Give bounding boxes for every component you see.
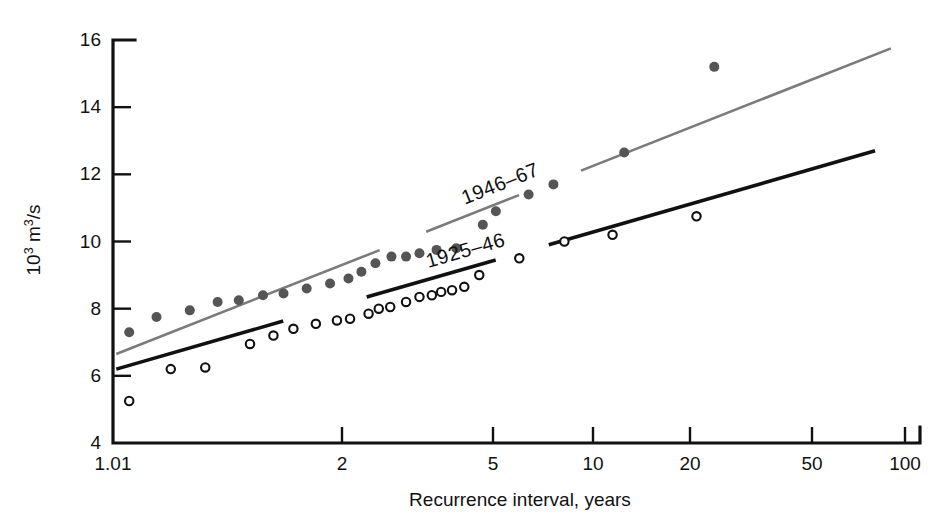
data-point-open [460, 283, 468, 291]
data-point-open [312, 320, 320, 328]
x-tick-marks [342, 427, 905, 443]
y-tick-label: 8 [90, 298, 101, 319]
data-point-open [246, 340, 254, 348]
y-tick-label: 12 [80, 163, 101, 184]
data-point-open [448, 286, 456, 294]
x-tick-label: 100 [889, 453, 921, 474]
data-point-open [560, 237, 568, 245]
data-point-filled [619, 148, 629, 158]
data-point-open [475, 271, 483, 279]
data-point-open [386, 303, 394, 311]
data-point-open [692, 212, 700, 220]
x-tick-label: 50 [801, 453, 822, 474]
x-tick-label: 2 [337, 453, 348, 474]
data-point-filled [234, 295, 244, 305]
y-tick-label: 16 [80, 29, 101, 50]
x-tick-label: 1.01 [95, 453, 132, 474]
data-point-open [364, 310, 372, 318]
data-point-filled [185, 305, 195, 315]
data-point-filled [279, 289, 289, 299]
series-label: 1925–46 [423, 228, 507, 272]
y-title-tail: /s [23, 205, 44, 220]
data-point-open [437, 288, 445, 296]
x-tick-labels: 1.0125102050100 [95, 453, 921, 474]
data-point-open [201, 363, 209, 371]
y-tick-label: 6 [90, 365, 101, 386]
data-point-open [346, 315, 354, 323]
chart-figure: 46810121416 1.0125102050100 103 m3/s Rec… [0, 0, 946, 525]
x-axis-title: Recurrence interval, years [409, 489, 631, 510]
series-1 [116, 48, 891, 354]
data-point-open [289, 325, 297, 333]
svg-text:103 m3/s: 103 m3/s [22, 205, 44, 276]
data-point-filled [258, 290, 268, 300]
y-tick-labels: 46810121416 [80, 29, 102, 453]
data-point-open [333, 316, 341, 324]
data-point-filled [370, 258, 380, 268]
trend-line-segment [116, 250, 379, 354]
y-tick-label: 4 [90, 432, 101, 453]
data-point-filled [478, 220, 488, 230]
data-point-filled [524, 189, 534, 199]
data-point-filled [124, 327, 134, 337]
data-point-filled [152, 312, 162, 322]
data-point-filled [548, 179, 558, 189]
axis-lines [113, 40, 920, 443]
y-title-exp1: 3 [22, 247, 36, 254]
data-point-filled [386, 252, 396, 262]
data-point-filled [401, 252, 411, 262]
y-title-base: 10 [23, 254, 44, 275]
series-label: 1946–67 [458, 158, 542, 208]
data-point-filled [325, 278, 335, 288]
y-tick-label: 10 [80, 231, 101, 252]
data-point-filled [356, 267, 366, 277]
data-point-open [125, 397, 133, 405]
axes [113, 40, 920, 443]
data-point-open [269, 331, 277, 339]
y-title-exp2: 3 [22, 219, 36, 226]
data-point-open [608, 231, 616, 239]
data-point-open [375, 304, 383, 312]
data-point-open [167, 365, 175, 373]
data-point-filled [213, 297, 223, 307]
x-tick-label: 5 [488, 453, 499, 474]
data-point-open [428, 291, 436, 299]
data-point-open [515, 254, 523, 262]
recurrence-interval-chart: 46810121416 1.0125102050100 103 m3/s Rec… [0, 0, 946, 525]
data-point-filled [491, 206, 501, 216]
y-title-mid: m [23, 226, 44, 247]
series-layer [116, 48, 891, 405]
data-point-open [415, 293, 423, 301]
x-tick-label: 10 [582, 453, 603, 474]
y-tick-label: 14 [80, 96, 102, 117]
data-point-filled [343, 273, 353, 283]
x-tick-label: 20 [679, 453, 700, 474]
y-axis-title: 103 m3/s [22, 205, 44, 276]
data-point-filled [709, 62, 719, 72]
data-point-open [402, 298, 410, 306]
series-annotation-layer: 1946–671925–46 [423, 158, 542, 272]
data-point-filled [302, 284, 312, 294]
